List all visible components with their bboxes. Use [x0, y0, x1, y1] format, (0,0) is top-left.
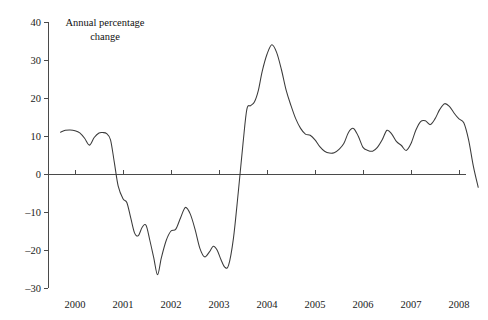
data-series-line: [61, 45, 479, 275]
y-axis-tick-labels: 403020100–10–20–30: [24, 17, 41, 294]
y-axis-group: 403020100–10–20–30: [24, 17, 48, 294]
annotation-line-1: Annual percentage: [65, 17, 144, 28]
y-tick-label: 10: [31, 131, 42, 142]
annual-percentage-change-chart: 403020100–10–20–30 200020012002200320042…: [0, 0, 488, 320]
x-tick-label: 2008: [449, 299, 470, 310]
y-tick-label: 0: [36, 169, 41, 180]
x-tick-label: 2006: [353, 299, 374, 310]
x-axis-tick-marks: [75, 170, 459, 174]
x-tick-label: 2004: [257, 299, 279, 310]
x-axis-tick-labels: 200020012002200320042005200620072008: [65, 299, 470, 310]
y-tick-label: 20: [31, 93, 42, 104]
y-tick-label: –30: [24, 283, 41, 294]
chart-plot-area: 403020100–10–20–30 200020012002200320042…: [0, 0, 488, 320]
x-tick-label: 2001: [113, 299, 134, 310]
y-tick-label: –10: [24, 207, 41, 218]
x-tick-label: 2003: [209, 299, 230, 310]
series-group: [61, 45, 479, 275]
y-tick-label: 30: [31, 55, 42, 66]
x-tick-label: 2007: [401, 299, 422, 310]
x-axis-group: 200020012002200320042005200620072008: [48, 170, 470, 310]
x-tick-label: 2002: [161, 299, 182, 310]
x-tick-label: 2005: [305, 299, 326, 310]
y-tick-label: 40: [31, 17, 42, 28]
annotation-line-2: change: [90, 31, 120, 42]
y-axis-tick-marks: [44, 22, 48, 288]
y-tick-label: –20: [24, 245, 41, 256]
x-tick-label: 2000: [65, 299, 86, 310]
chart-annotation: Annual percentage change: [65, 17, 144, 42]
